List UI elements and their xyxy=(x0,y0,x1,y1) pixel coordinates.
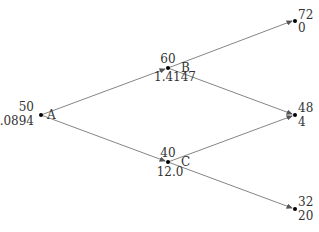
node-terminal-up-dot xyxy=(293,19,297,23)
node-a-name: A xyxy=(46,108,56,122)
node-terminal-down-dot xyxy=(293,207,297,211)
node-a: 50 5.0894 A xyxy=(0,100,56,128)
binomial-tree-diagram: 50 5.0894 A 60 1.4147 B 40 12.0 C 72 0 4… xyxy=(0,0,319,232)
node-terminal-mid-sub: 4 xyxy=(298,115,306,129)
node-terminal-mid: 48 4 xyxy=(293,101,313,129)
node-terminal-down-value: 32 xyxy=(298,195,313,209)
node-c: 40 12.0 C xyxy=(157,146,191,179)
node-a-dot xyxy=(39,113,43,117)
node-terminal-mid-dot xyxy=(293,113,297,117)
node-b: 60 1.4147 B xyxy=(154,52,196,84)
node-b-value: 60 xyxy=(160,52,175,66)
node-terminal-up-value: 72 xyxy=(298,8,313,22)
node-a-value: 50 xyxy=(19,100,34,114)
node-terminal-up: 72 0 xyxy=(293,8,313,35)
node-c-dot xyxy=(166,160,170,164)
node-a-sub: 5.0894 xyxy=(0,114,34,128)
node-terminal-down-sub: 20 xyxy=(298,209,313,223)
edge-a-b xyxy=(41,69,165,115)
node-c-value: 40 xyxy=(160,146,175,160)
node-terminal-down: 32 20 xyxy=(293,195,313,223)
node-terminal-up-sub: 0 xyxy=(298,21,306,35)
node-terminal-mid-value: 48 xyxy=(298,101,313,115)
node-b-name: B xyxy=(181,61,190,75)
node-c-sub: 12.0 xyxy=(157,165,184,179)
node-c-name: C xyxy=(181,155,190,169)
edge-a-c xyxy=(41,115,165,161)
